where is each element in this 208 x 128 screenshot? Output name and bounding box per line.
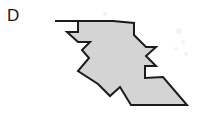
scan-speckle — [103, 12, 107, 16]
composite-polygon-shape — [55, 21, 187, 105]
composite-polygon-figure — [0, 0, 208, 128]
scan-speckle — [184, 52, 188, 56]
scan-speckle — [174, 47, 178, 51]
scan-speckle — [181, 40, 185, 44]
scan-speckle — [176, 28, 182, 34]
figure-canvas: D — [0, 0, 208, 128]
